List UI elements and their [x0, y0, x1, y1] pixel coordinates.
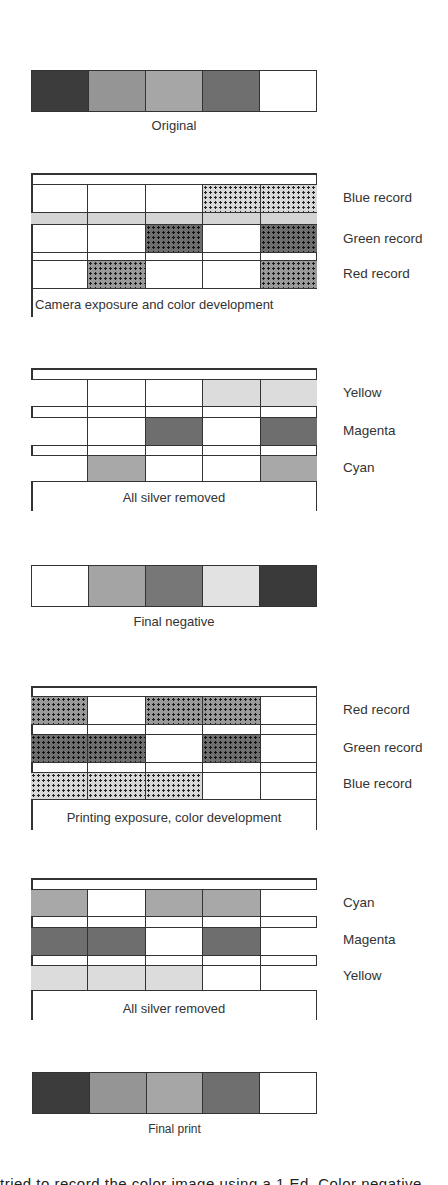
label-yellow-print: Yellow: [343, 968, 382, 983]
layer-cell-4: [203, 225, 260, 252]
layer-green-record: [31, 224, 317, 253]
dye-cell-5: [261, 418, 317, 445]
layer-cell-2: [88, 773, 145, 799]
dye-cell-1: [31, 890, 88, 916]
layer-cell-5: [261, 735, 317, 762]
dye-cell-4: [203, 890, 260, 916]
final-negative-caption: Final negative: [31, 614, 317, 629]
layer-cell-3: [146, 773, 203, 799]
label-yellow: Yellow: [343, 385, 382, 400]
final-print-caption: Final print: [32, 1122, 317, 1136]
label-magenta: Magenta: [343, 423, 396, 438]
layer-cell-1: [31, 773, 88, 799]
layer-cell-4: [203, 261, 260, 288]
dye-cell-3: [146, 928, 203, 955]
negative-patch-4: [203, 566, 260, 606]
print-patch-2: [90, 1073, 147, 1113]
layer-magenta-dye: [31, 417, 317, 446]
dye-cell-5: [261, 928, 317, 955]
dye-cell-1: [31, 380, 88, 406]
final-print-strip: [32, 1072, 317, 1114]
label-green-record-print: Green record: [343, 740, 423, 755]
cut-off-body-text: tried to record the color image using a …: [0, 1176, 448, 1185]
original-patch-1: [32, 71, 89, 111]
print-patch-1: [33, 1073, 90, 1113]
layer-cell-4: [203, 185, 260, 212]
dye-cell-1: [31, 418, 88, 445]
label-magenta-print: Magenta: [343, 932, 396, 947]
layer-cell-2: [88, 225, 145, 252]
cut-off-text-line: tried to record the color image using a …: [0, 1176, 448, 1185]
layer-cell-1: [31, 185, 88, 212]
layer-cell-2: [88, 697, 145, 724]
original-patch-4: [203, 71, 260, 111]
dye-cell-2: [88, 418, 145, 445]
layer-cell-4: [203, 735, 260, 762]
dye-cell-3: [146, 966, 203, 990]
layer-cell-2: [88, 185, 145, 212]
dye-cell-5: [261, 456, 317, 481]
dye-cell-1: [31, 456, 88, 481]
print-patch-4: [203, 1073, 260, 1113]
layer-cell-5: [261, 261, 317, 288]
layer-cell-1: [31, 261, 88, 288]
dye-cell-3: [146, 456, 203, 481]
layer-cell-1: [31, 697, 88, 724]
final-negative-strip: [31, 565, 317, 607]
original-patch-2: [89, 71, 146, 111]
print-patch-5: [260, 1073, 316, 1113]
print-dyes-caption: All silver removed: [31, 1001, 317, 1016]
label-red-record: Red record: [343, 266, 410, 281]
original-patch-3: [146, 71, 203, 111]
dye-cell-5: [261, 380, 317, 406]
negative-patch-1: [32, 566, 89, 606]
layer-cell-1: [31, 225, 88, 252]
print-dyes-diagram: All silver removed: [31, 878, 317, 1020]
layer-cyan-dye: [31, 455, 317, 482]
layer-cell-3: [146, 261, 203, 288]
layer-cell-5: [261, 225, 317, 252]
layer-red-record: [31, 696, 317, 725]
layer-cyan-dye: [31, 889, 317, 917]
original-strip: [31, 70, 317, 112]
layer-yellow-dye: [31, 379, 317, 407]
layer-cell-3: [146, 225, 203, 252]
label-cyan: Cyan: [343, 460, 375, 475]
printing-exposure-caption: Printing exposure, color development: [31, 810, 317, 825]
dye-cell-4: [203, 418, 260, 445]
negative-patch-5: [260, 566, 316, 606]
dye-cell-3: [146, 890, 203, 916]
layer-cell-3: [146, 697, 203, 724]
dye-cell-3: [146, 380, 203, 406]
print-patch-3: [147, 1073, 204, 1113]
dye-cell-4: [203, 380, 260, 406]
dye-cell-1: [31, 966, 88, 990]
layer-cell-5: [261, 185, 317, 212]
layer-cell-1: [31, 735, 88, 762]
dye-cell-4: [203, 928, 260, 955]
camera-exposure-caption: Camera exposure and color development: [35, 297, 317, 312]
layer-cell-2: [88, 261, 145, 288]
label-blue-record: Blue record: [343, 190, 412, 205]
label-blue-record-print: Blue record: [343, 776, 412, 791]
layer-yellow-dye: [31, 965, 317, 991]
label-green-record: Green record: [343, 231, 423, 246]
yellow-filter-strip: [31, 213, 317, 224]
layer-cell-4: [203, 697, 260, 724]
original-patch-5: [260, 71, 316, 111]
layer-cell-3: [146, 735, 203, 762]
negative-dyes-diagram: All silver removed: [31, 368, 317, 511]
dye-cell-2: [88, 890, 145, 916]
layer-red-record: [31, 260, 317, 289]
dye-cell-4: [203, 966, 260, 990]
camera-exposure-diagram: Camera exposure and color development: [31, 173, 317, 317]
negative-patch-3: [146, 566, 203, 606]
layer-magenta-dye: [31, 927, 317, 956]
printing-exposure-diagram: Printing exposure, color development: [31, 686, 317, 830]
dye-cell-2: [88, 928, 145, 955]
layer-blue-record: [31, 184, 317, 213]
layer-green-record: [31, 734, 317, 763]
negative-patch-2: [89, 566, 146, 606]
dye-cell-3: [146, 418, 203, 445]
label-red-record-print: Red record: [343, 702, 410, 717]
